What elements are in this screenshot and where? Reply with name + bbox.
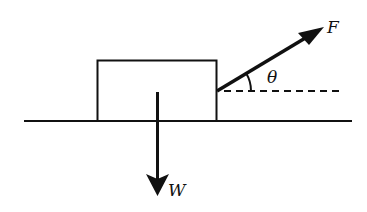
angle-label: θ: [267, 67, 277, 87]
weight-label: W: [168, 180, 187, 200]
force-label: F: [326, 17, 340, 37]
free-body-diagram: F W θ: [0, 0, 367, 212]
angle-arc: [246, 73, 251, 91]
weight-arrow: [146, 92, 169, 196]
